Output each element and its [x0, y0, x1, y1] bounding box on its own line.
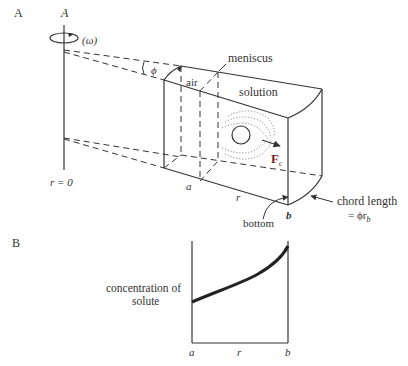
- r-zero-label: r = 0: [50, 176, 73, 188]
- x-tick-r: r: [237, 346, 242, 358]
- a-label: a: [186, 180, 192, 192]
- radial-line-top-lower: [64, 52, 164, 80]
- b-label: b: [286, 209, 292, 221]
- x-tick-b: b: [285, 346, 291, 358]
- y-axis-label-line2: solute: [132, 295, 159, 307]
- concentration-curve: [192, 246, 288, 302]
- chord-formula-label: = ϕrb: [348, 209, 370, 224]
- y-axis-label-line1: concentration of: [106, 282, 181, 294]
- radial-line-top-upper: [64, 50, 181, 66]
- force-label: Fc: [271, 151, 283, 168]
- sedimentation-diagram: A A (ω) ϕ r = 0: [0, 0, 408, 366]
- phi-label: ϕ: [151, 64, 157, 76]
- r-label: r: [236, 191, 241, 203]
- meniscus-label: meniscus: [228, 51, 273, 65]
- phi-angle-arc: [143, 62, 145, 74]
- flow-lines: [222, 111, 274, 159]
- bottom-pointer: [263, 197, 288, 219]
- centrifugal-force-arrow: [262, 140, 280, 146]
- bottom-label: bottom: [243, 217, 275, 229]
- meniscus-pointer: [219, 64, 226, 71]
- omega-label: (ω): [82, 34, 97, 47]
- chord-length-label: chord length: [337, 194, 397, 208]
- rotation-axis-label: A: [60, 6, 69, 20]
- x-tick-a: a: [189, 346, 195, 358]
- radial-line-bottom-lower: [64, 139, 164, 168]
- particle: [232, 126, 250, 144]
- panel-b-label: B: [12, 236, 20, 250]
- air-label: air: [186, 76, 198, 88]
- solution-label: solution: [239, 85, 278, 99]
- chord-pointer: [311, 196, 333, 202]
- panel-a-label: A: [14, 6, 23, 20]
